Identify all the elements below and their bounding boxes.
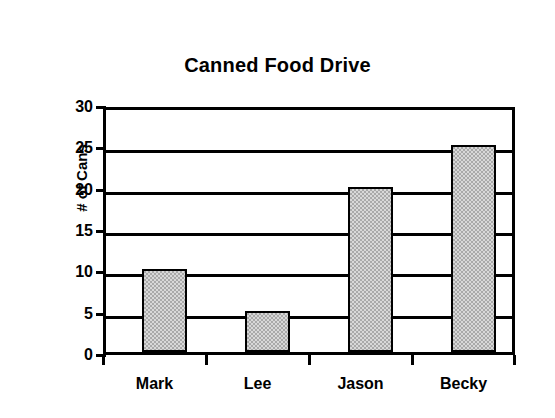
bar-chart: Canned Food Drive # of Cans 30 25 20 15 … [0, 0, 555, 418]
y-tick-label-0: 0 [51, 347, 93, 363]
bar-jason [348, 187, 393, 352]
y-tick-label-30: 30 [51, 99, 93, 115]
y-tick-label-10: 10 [51, 264, 93, 280]
y-axis-tick-labels: 30 25 20 15 10 5 0 [51, 0, 93, 418]
x-tick-label-becky: Becky [412, 375, 515, 393]
x-tick-label-jason: Jason [309, 375, 412, 393]
y-tick-label-20: 20 [51, 182, 93, 198]
x-tick-mark-end [513, 355, 516, 365]
x-tick-mark-1 [205, 355, 208, 365]
bar-becky [451, 145, 496, 352]
x-tick-mark-2 [308, 355, 311, 365]
x-tick-label-mark: Mark [103, 375, 206, 393]
y-tick-label-5: 5 [51, 306, 93, 322]
bar-mark [142, 269, 187, 352]
x-tick-label-lee: Lee [206, 375, 309, 393]
bar-lee [245, 311, 290, 352]
y-tick-label-25: 25 [51, 140, 93, 156]
x-tick-mark-start [102, 355, 105, 365]
y-tick-label-15: 15 [51, 223, 93, 239]
plot-area [103, 107, 515, 355]
x-tick-mark-3 [411, 355, 414, 365]
